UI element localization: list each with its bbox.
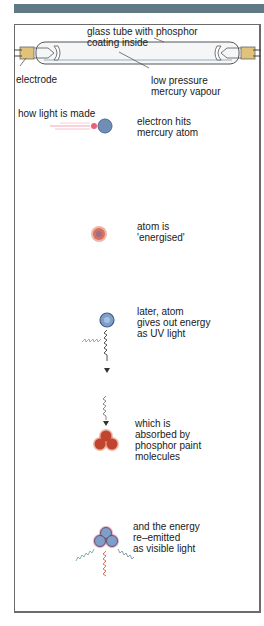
header-bar [14,4,264,13]
step-2-label: atom is 'energised' [137,221,185,243]
step-5-label: and the energy re–emitted as visible lig… [133,521,200,554]
electron-atom-collision-icon [45,114,115,138]
energised-atom-icon [89,224,109,244]
electrode-label: electrode [16,74,57,85]
phosphor-molecule-absorbing-icon [92,394,122,456]
step-3-label: later, atom gives out energy as UV light [137,306,210,339]
mercury-vapour-label: low pressure mercury vapour [151,75,220,97]
atom-emitting-uv-icon [78,312,118,374]
step-4-label: which is absorbed by phosphor paint mole… [135,418,201,462]
glass-tube-label: glass tube with phosphor coating inside [87,26,198,48]
step-1-label: electron hits mercury atom [137,116,198,138]
molecule-emitting-visible-light-icon [72,525,142,585]
